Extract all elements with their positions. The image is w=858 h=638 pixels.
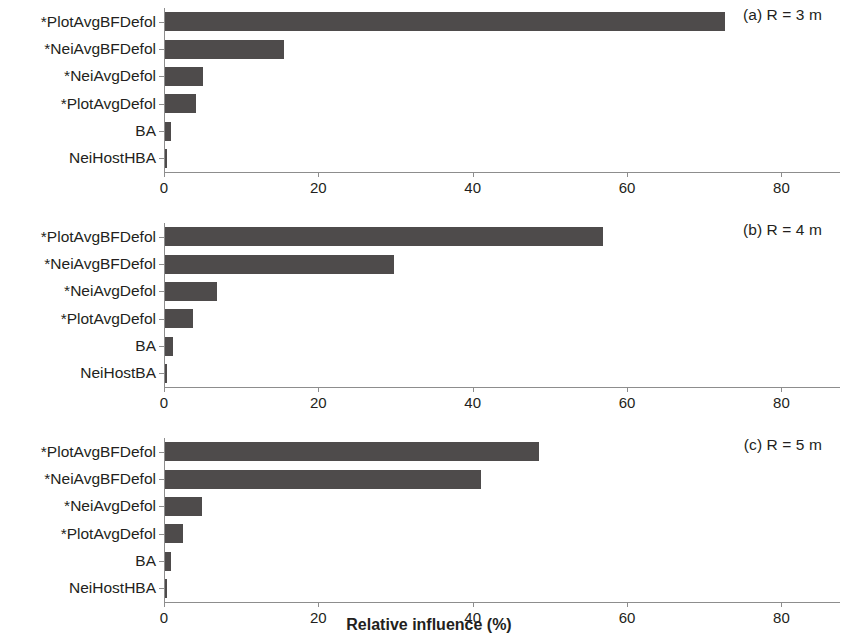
- y-tick-label: *NeiAvgDefol: [64, 283, 156, 299]
- x-tick-label: 0: [160, 179, 168, 196]
- x-tick-label: 20: [310, 179, 327, 196]
- y-tick-label: BA: [135, 338, 156, 354]
- y-tick-label: *NeiAvgBFDefol: [44, 41, 156, 57]
- y-tick-mark: [159, 158, 164, 159]
- x-tick-label: 60: [619, 179, 636, 196]
- x-tick-mark: [318, 173, 319, 177]
- x-tick-label: 0: [160, 394, 168, 411]
- x-tick-mark: [473, 388, 474, 392]
- x-tick-label: 80: [773, 394, 790, 411]
- bar: [165, 579, 167, 598]
- x-tick-label: 40: [464, 179, 481, 196]
- panel-c-y-axis-line: [164, 438, 165, 602]
- bar: [165, 12, 725, 31]
- x-tick-mark: [473, 173, 474, 177]
- bar: [165, 497, 202, 516]
- x-tick-mark: [781, 173, 782, 177]
- y-tick-label: NeiHostHBA: [69, 580, 156, 596]
- x-tick-mark: [318, 603, 319, 607]
- y-tick-mark: [159, 319, 164, 320]
- x-tick-mark: [164, 173, 165, 177]
- bar: [165, 40, 284, 59]
- y-tick-label: NeiHostBA: [80, 365, 156, 381]
- y-tick-mark: [159, 373, 164, 374]
- y-tick-label: *NeiAvgBFDefol: [44, 256, 156, 272]
- x-tick-mark: [164, 388, 165, 392]
- y-tick-mark: [159, 104, 164, 105]
- bar: [165, 442, 539, 461]
- bar: [165, 122, 171, 141]
- y-tick-label: *NeiAvgDefol: [64, 68, 156, 84]
- bar: [165, 364, 167, 383]
- panel-c-x-axis-line: [164, 602, 840, 603]
- bar: [165, 552, 171, 571]
- x-tick-label: 20: [310, 394, 327, 411]
- panel-a: (a) R = 3 m *PlotAvgBFDefol*NeiAvgBFDefo…: [0, 0, 858, 205]
- x-tick-mark: [473, 603, 474, 607]
- y-tick-label: *PlotAvgDefol: [61, 526, 156, 542]
- y-tick-mark: [159, 479, 164, 480]
- panel-a-y-axis-line: [164, 8, 165, 172]
- y-tick-label: *PlotAvgDefol: [61, 96, 156, 112]
- y-tick-label: *PlotAvgBFDefol: [41, 229, 156, 245]
- y-tick-mark: [159, 534, 164, 535]
- x-tick-mark: [164, 603, 165, 607]
- panel-b-y-axis-line: [164, 223, 165, 387]
- bar: [165, 309, 193, 328]
- y-tick-mark: [159, 452, 164, 453]
- panel-c-plot-area: 020406080: [164, 438, 820, 602]
- bar: [165, 67, 203, 86]
- y-tick-mark: [159, 76, 164, 77]
- y-tick-label: *NeiAvgDefol: [64, 498, 156, 514]
- bar: [165, 470, 481, 489]
- bar: [165, 255, 394, 274]
- y-tick-mark: [159, 291, 164, 292]
- bar: [165, 227, 603, 246]
- y-tick-mark: [159, 237, 164, 238]
- bar: [165, 337, 173, 356]
- y-tick-mark: [159, 264, 164, 265]
- panel-c: (c) R = 5 m *PlotAvgBFDefol*NeiAvgBFDefo…: [0, 430, 858, 635]
- panel-a-x-axis-line: [164, 172, 840, 173]
- y-tick-mark: [159, 506, 164, 507]
- y-tick-mark: [159, 49, 164, 50]
- x-axis-title: Relative influence (%): [0, 616, 858, 634]
- bar: [165, 149, 167, 168]
- bar: [165, 282, 217, 301]
- panel-b-plot-area: 020406080: [164, 223, 820, 387]
- panel-a-plot-area: 020406080: [164, 8, 820, 172]
- x-tick-label: 60: [619, 394, 636, 411]
- x-tick-mark: [781, 388, 782, 392]
- y-tick-mark: [159, 346, 164, 347]
- bar: [165, 524, 183, 543]
- y-tick-label: *PlotAvgBFDefol: [41, 444, 156, 460]
- x-tick-mark: [627, 173, 628, 177]
- y-tick-label: *PlotAvgBFDefol: [41, 14, 156, 30]
- relative-influence-bar-chart-figure: (a) R = 3 m *PlotAvgBFDefol*NeiAvgBFDefo…: [0, 0, 858, 638]
- y-tick-mark: [159, 22, 164, 23]
- x-tick-mark: [627, 388, 628, 392]
- y-tick-label: BA: [135, 123, 156, 139]
- y-tick-label: *PlotAvgDefol: [61, 311, 156, 327]
- y-tick-mark: [159, 561, 164, 562]
- panel-b: (b) R = 4 m *PlotAvgBFDefol*NeiAvgBFDefo…: [0, 215, 858, 420]
- bar: [165, 94, 196, 113]
- y-tick-mark: [159, 588, 164, 589]
- x-tick-mark: [318, 388, 319, 392]
- panel-b-x-axis-line: [164, 387, 840, 388]
- y-tick-label: *NeiAvgBFDefol: [44, 471, 156, 487]
- y-tick-mark: [159, 131, 164, 132]
- x-tick-label: 40: [464, 394, 481, 411]
- x-tick-mark: [627, 603, 628, 607]
- x-tick-label: 80: [773, 179, 790, 196]
- x-tick-mark: [781, 603, 782, 607]
- y-tick-label: NeiHostHBA: [69, 150, 156, 166]
- y-tick-label: BA: [135, 553, 156, 569]
